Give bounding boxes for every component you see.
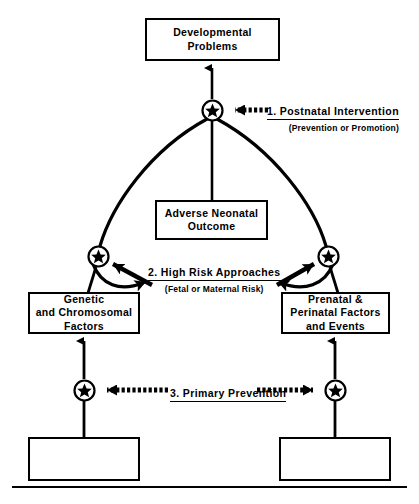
star-node-icon-left-bottom[interactable] <box>73 379 96 402</box>
box-prenatal-and-perinatal-factors: Prenatal & Perinatal Factors and Events <box>281 292 390 334</box>
line-left-node-to-genetic-box <box>88 267 96 293</box>
box-adverse-neonatal-outcome: Adverse Neonatal Outcome <box>155 200 268 240</box>
connector-layer <box>0 0 419 504</box>
star-node-icon-right-mid[interactable] <box>317 245 340 268</box>
star-node-icon <box>324 379 347 402</box>
box-genetic-and-chromosomal-factors-label: Genetic and Chromosomal Factors <box>36 293 133 334</box>
line-right-node-to-prenatal-box <box>330 267 338 293</box>
label-high-risk-approaches: 2. High Risk Approaches (Fetal or Matern… <box>148 262 281 295</box>
box-developmental-problems: Developmental Problems <box>145 18 280 61</box>
label-high-risk-approaches-subtitle: (Fetal or Maternal Risk) <box>148 283 281 295</box>
star-node-icon-right-bottom[interactable] <box>324 379 347 402</box>
box-genetic-and-chromosomal-factors: Genetic and Chromosomal Factors <box>28 292 140 334</box>
star-node-icon <box>87 245 110 268</box>
star-node-icon-left-mid[interactable] <box>87 245 110 268</box>
label-primary-prevention: 3. Primary Prevention <box>170 383 286 402</box>
bottom-divider <box>12 486 407 488</box>
arrow-high-risk-to-right-node <box>277 264 314 285</box>
box-developmental-problems-label: Developmental Problems <box>173 26 252 53</box>
box-bottom-right-empty <box>279 437 391 481</box>
label-postnatal-intervention-title: 1. Postnatal Intervention <box>267 105 399 120</box>
label-postnatal-intervention-subtitle: (Prevention or Promotion) <box>267 122 399 134</box>
arrow-high-risk-to-left-node <box>113 264 152 285</box>
star-node-icon <box>317 245 340 268</box>
star-node-icon <box>201 99 224 122</box>
box-prenatal-and-perinatal-factors-label: Prenatal & Perinatal Factors and Events <box>290 293 380 334</box>
label-primary-prevention-title: 3. Primary Prevention <box>170 387 286 402</box>
box-bottom-left-empty <box>28 437 140 481</box>
star-node-icon-top[interactable] <box>201 99 224 122</box>
label-postnatal-intervention: 1. Postnatal Intervention (Prevention or… <box>267 101 399 134</box>
star-node-icon <box>73 379 96 402</box>
label-high-risk-approaches-title: 2. High Risk Approaches <box>148 266 281 281</box>
box-adverse-neonatal-outcome-label: Adverse Neonatal Outcome <box>165 207 259 234</box>
diagram-figure: Developmental Problems Adverse Neonatal … <box>0 0 419 504</box>
